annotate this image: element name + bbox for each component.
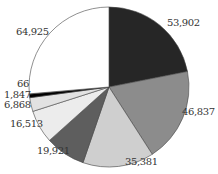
- label-46837: 46,837: [182, 106, 215, 117]
- label-19921: 19,921: [37, 145, 70, 156]
- label-1847: 1,847: [4, 89, 31, 100]
- label-64925: 64,925: [16, 26, 49, 37]
- label-6868: 6,868: [4, 99, 31, 110]
- pie-slice-64925: [29, 7, 109, 94]
- label-66: 66: [17, 78, 29, 89]
- label-16513: 16,513: [10, 118, 43, 129]
- label-53902: 53,902: [167, 17, 200, 28]
- label-35381: 35,381: [125, 156, 158, 167]
